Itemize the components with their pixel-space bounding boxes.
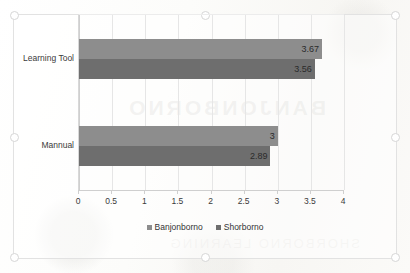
resize-handle-bottom-center[interactable]	[201, 253, 210, 262]
legend-item[interactable]: Banjonborno	[147, 222, 203, 232]
x-axis-tick-label: 3.5	[304, 196, 316, 206]
x-axis-tick-label: 2.5	[238, 196, 250, 206]
category-label: Learning Tool	[23, 53, 74, 63]
resize-handle-bottom-left[interactable]	[10, 253, 19, 262]
bar-banjonborno-mannual[interactable]: 3	[79, 126, 278, 146]
chart-legend: BanjonbornoShorborno	[0, 222, 410, 232]
x-axis-tick-mark	[78, 191, 79, 194]
x-axis-tick-mark	[244, 191, 245, 194]
x-axis-tick-label: 3	[274, 196, 279, 206]
x-axis-tick-mark	[177, 191, 178, 194]
bar-shorborno-learning-tool[interactable]: 3.56	[79, 59, 315, 79]
x-axis-tick-label: 1.5	[171, 196, 183, 206]
legend-swatch-icon	[216, 225, 221, 230]
plot-area: 3.673.5632.89	[78, 14, 344, 190]
resize-handle-bottom-right[interactable]	[391, 253, 400, 262]
x-axis-tick-label: 4	[341, 196, 346, 206]
x-axis-tick-mark	[111, 191, 112, 194]
legend-label: Shorborno	[224, 222, 264, 232]
bar-banjonborno-learning-tool[interactable]: 3.67	[79, 39, 322, 59]
resize-handle-middle-right[interactable]	[391, 133, 400, 142]
bar-group: 32.89	[79, 126, 344, 166]
legend-swatch-icon	[147, 225, 152, 230]
bar-value-label: 3.67	[302, 44, 320, 53]
legend-item[interactable]: Shorborno	[216, 222, 264, 232]
x-axis-tick-mark	[277, 191, 278, 194]
x-axis-tick-label: 0	[76, 196, 81, 206]
x-axis-tick-mark	[144, 191, 145, 194]
x-axis-tick-label: 0.5	[105, 196, 117, 206]
legend-label: Banjonborno	[155, 222, 203, 232]
bar-group: 3.673.56	[79, 39, 344, 79]
x-axis-tick-mark	[310, 191, 311, 194]
x-axis-tick-label: 1	[142, 196, 147, 206]
bar-shorborno-mannual[interactable]: 2.89	[79, 146, 270, 166]
x-axis: 00.511.522.533.54	[78, 190, 344, 211]
x-axis-tick-mark	[343, 191, 344, 194]
x-axis-tick-mark	[211, 191, 212, 194]
bar-value-label: 2.89	[250, 152, 268, 161]
x-axis-tick-label: 2	[208, 196, 213, 206]
bar-value-label: 3	[270, 132, 275, 141]
resize-handle-top-right[interactable]	[391, 11, 400, 20]
bar-value-label: 3.56	[294, 64, 312, 73]
gridline	[344, 15, 345, 190]
y-axis-category-labels: Learning ToolMannual	[12, 14, 74, 190]
category-label: Mannual	[41, 140, 74, 150]
